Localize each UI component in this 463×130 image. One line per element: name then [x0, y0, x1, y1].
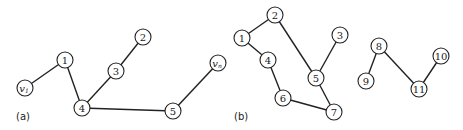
node-2: 2: [135, 29, 151, 45]
node-v1: v1: [17, 80, 33, 96]
svg-text:7: 7: [331, 107, 337, 118]
node-3: 3: [108, 63, 124, 79]
node-b10: 10: [433, 48, 449, 64]
svg-text:4: 4: [79, 103, 85, 114]
node-5: 5: [165, 103, 181, 119]
edge-5-vn: [173, 63, 218, 111]
node-b9: 9: [358, 73, 374, 89]
panel-label: (b): [234, 111, 248, 122]
svg-text:5: 5: [170, 106, 176, 117]
node-b6: 6: [275, 90, 291, 106]
node-b1: 1: [234, 30, 250, 46]
node-b2: 2: [267, 7, 283, 23]
edge-4-5: [82, 108, 173, 111]
svg-text:4: 4: [265, 55, 271, 66]
node-b7: 7: [326, 104, 342, 120]
graph-figure: v112345vn(a)1234567891011(b): [0, 0, 463, 130]
svg-text:2: 2: [140, 32, 146, 43]
node-b11: 11: [411, 81, 427, 97]
node-b4: 4: [260, 52, 276, 68]
node-4: 4: [74, 100, 90, 116]
panel-label: (a): [16, 111, 30, 122]
svg-text:6: 6: [280, 93, 286, 104]
node-b3: 3: [332, 27, 348, 43]
svg-text:1: 1: [239, 33, 245, 44]
node-b8: 8: [371, 38, 387, 54]
panel-b: 1234567891011(b): [234, 7, 449, 122]
svg-text:3: 3: [113, 66, 119, 77]
svg-text:1: 1: [62, 55, 68, 66]
edge-b2-b5: [275, 15, 316, 78]
panel-a: v112345vn(a): [16, 29, 226, 122]
svg-text:10: 10: [435, 51, 448, 62]
svg-text:11: 11: [413, 84, 426, 95]
node-1: 1: [57, 52, 73, 68]
graph-diagram: v112345vn(a)1234567891011(b): [0, 0, 463, 130]
node-vn: vn: [210, 55, 226, 71]
svg-text:3: 3: [337, 30, 343, 41]
svg-text:9: 9: [363, 76, 369, 87]
svg-text:8: 8: [376, 41, 382, 52]
node-b5: 5: [308, 70, 324, 86]
svg-text:2: 2: [272, 10, 278, 21]
svg-text:5: 5: [313, 73, 319, 84]
